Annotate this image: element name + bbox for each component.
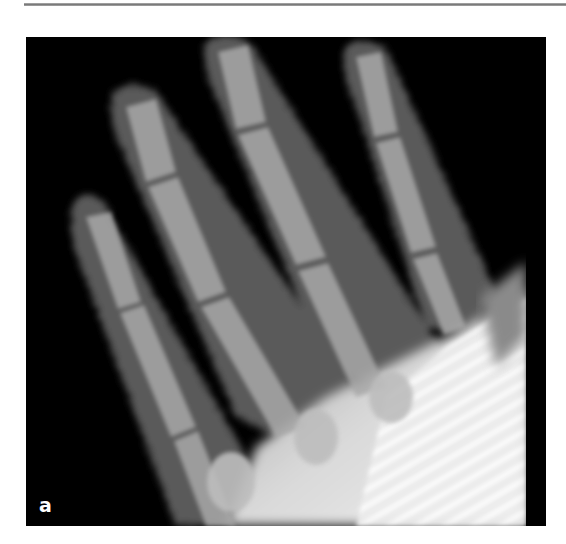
panel-label: a <box>39 495 52 515</box>
radiograph-figure-panel: a <box>26 37 546 526</box>
hand-xray-image <box>26 37 546 526</box>
top-rule-divider <box>24 3 566 6</box>
